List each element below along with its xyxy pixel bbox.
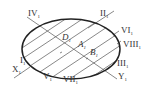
label-y: Y1 [118, 71, 128, 82]
label-iv: IV1 [28, 8, 41, 19]
label-b: B1 [90, 47, 98, 58]
label-iii: III1 [117, 58, 129, 69]
label-ii: II1 [100, 8, 109, 19]
label-vi: VI1 [121, 25, 134, 36]
label-vii: VII1 [63, 74, 79, 85]
label-d: D1 [61, 32, 71, 43]
ellipse-section-diagram: IV1 II1 VI1 VIII1 III1 Y1 I1 X1 V1 VII1 … [0, 0, 143, 93]
label-x: X1 [12, 64, 22, 75]
label-viii: VIII1 [123, 39, 142, 50]
label-a: A1 [77, 39, 86, 50]
label-v: V1 [43, 71, 53, 82]
